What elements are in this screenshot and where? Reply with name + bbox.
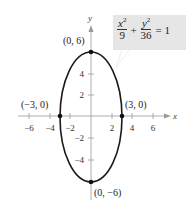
x-tick-label: −4 — [45, 123, 55, 133]
point-label-bottom: (0, −6) — [94, 187, 121, 199]
x-axis-arrow-icon — [164, 114, 171, 119]
point-label-top: (0, 6) — [63, 35, 85, 47]
y-axis-label: y — [87, 13, 92, 23]
y-tick-label: 4 — [80, 69, 85, 79]
x-fraction: x2 9 — [117, 18, 127, 41]
vertex-point — [89, 180, 94, 185]
vertex-point — [89, 50, 94, 55]
equation-callout: x2 9 + y2 36 = 1 — [113, 15, 186, 50]
x-axis-label: x — [172, 111, 177, 121]
x-tick-label: 4 — [130, 123, 135, 133]
callout-pointer — [116, 49, 130, 68]
x-tick-label: 2 — [110, 123, 115, 133]
x-tick-label: −2 — [65, 123, 75, 133]
point-label-right: (3, 0) — [125, 99, 147, 111]
y-tick-label: 2 — [80, 90, 85, 100]
x-tick-label: −6 — [24, 123, 34, 133]
y-axis-arrow-icon — [89, 25, 94, 32]
point-label-left: (−3, 0) — [21, 99, 48, 111]
ellipse-equation: x2 9 + y2 36 = 1 — [117, 18, 173, 41]
y-tick-label: −2 — [74, 133, 84, 143]
y-fraction: y2 36 — [140, 18, 153, 41]
co-vertex-point — [58, 114, 63, 119]
y-tick-label: −4 — [74, 155, 84, 165]
co-vertex-point — [120, 114, 125, 119]
x-tick-label: 6 — [151, 123, 156, 133]
